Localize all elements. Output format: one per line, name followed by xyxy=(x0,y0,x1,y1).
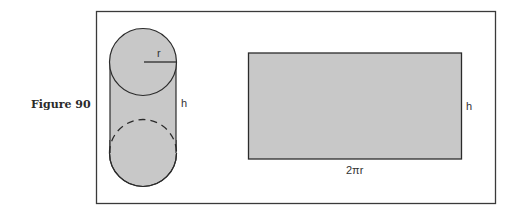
rectangle-height-label: h xyxy=(466,100,472,112)
bottom-circle xyxy=(110,153,177,186)
cylinder-height-label: h xyxy=(181,97,187,109)
rectangle-width-label: 2πr xyxy=(346,164,364,176)
lateral-rectangle xyxy=(249,53,462,159)
figure-diagram: r h h 2πr xyxy=(0,0,519,220)
cylinder-net xyxy=(110,29,177,187)
radius-label: r xyxy=(157,47,161,59)
